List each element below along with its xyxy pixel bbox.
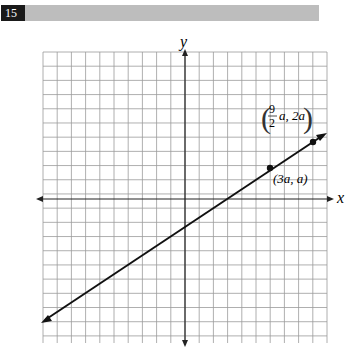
y-axis-label: y — [178, 33, 188, 51]
coordinate-plane: y x (3a, a) ( 9 2 a, 2a ) — [0, 0, 356, 363]
svg-text:9: 9 — [269, 102, 275, 116]
point2-label: ( 9 2 a, 2a ) — [261, 101, 313, 135]
point-9-2a-2a — [310, 139, 316, 145]
x-axis-arrow-right — [327, 196, 334, 202]
svg-text:): ) — [303, 101, 313, 135]
y-axis-arrow-down — [182, 340, 188, 347]
x-axis-arrow-left — [36, 196, 43, 202]
y-axis-arrow-up — [182, 49, 188, 56]
svg-text:2: 2 — [269, 116, 275, 130]
x-axis-label: x — [336, 189, 344, 206]
point1-label: (3a, a) — [273, 171, 308, 186]
svg-text:a, 2a: a, 2a — [279, 108, 306, 123]
graph-line — [45, 136, 322, 320]
